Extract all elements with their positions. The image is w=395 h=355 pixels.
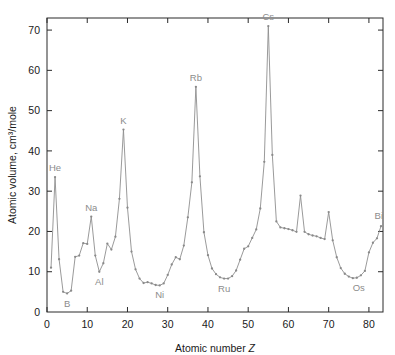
data-point bbox=[372, 242, 374, 244]
data-point bbox=[267, 25, 269, 27]
data-point bbox=[352, 277, 354, 279]
data-point bbox=[255, 228, 257, 230]
data-point bbox=[110, 248, 112, 250]
data-point bbox=[360, 274, 362, 276]
data-point bbox=[155, 284, 157, 286]
data-point bbox=[275, 220, 277, 222]
element-label-b: B bbox=[64, 298, 70, 309]
y-tick-label-zero: 0 bbox=[34, 306, 40, 318]
data-point bbox=[130, 250, 132, 252]
data-point bbox=[86, 243, 88, 245]
y-tick-label: 10 bbox=[28, 265, 40, 277]
data-point bbox=[167, 274, 169, 276]
x-tick-label: 0 bbox=[44, 318, 50, 330]
data-point bbox=[146, 281, 148, 283]
x-axis-ticks: 01020304050607080 bbox=[44, 18, 375, 330]
x-tick-label: 70 bbox=[323, 318, 335, 330]
data-point bbox=[332, 239, 334, 241]
data-point bbox=[78, 254, 80, 256]
data-point bbox=[58, 258, 60, 260]
element-label-he: He bbox=[49, 162, 61, 173]
data-point bbox=[227, 277, 229, 279]
element-label-ru: Ru bbox=[218, 283, 230, 294]
y-tick-label: 30 bbox=[28, 185, 40, 197]
element-label-rb: Rb bbox=[190, 72, 202, 83]
data-point bbox=[348, 275, 350, 277]
data-point bbox=[356, 277, 358, 279]
x-tick-label: 20 bbox=[122, 318, 134, 330]
data-point bbox=[336, 256, 338, 258]
y-tick-label: 40 bbox=[28, 145, 40, 157]
data-point bbox=[380, 225, 382, 227]
data-point bbox=[291, 229, 293, 231]
data-point bbox=[299, 194, 301, 196]
data-point bbox=[54, 176, 56, 178]
data-point bbox=[219, 276, 221, 278]
data-point bbox=[126, 207, 128, 209]
data-point bbox=[311, 234, 313, 236]
data-point bbox=[50, 267, 52, 269]
data-series-group bbox=[51, 26, 381, 293]
data-point bbox=[287, 228, 289, 230]
x-tick-label: 50 bbox=[242, 318, 254, 330]
y-tick-label: 50 bbox=[28, 104, 40, 116]
data-point bbox=[62, 291, 64, 293]
data-point bbox=[303, 231, 305, 233]
data-point bbox=[134, 268, 136, 270]
atomic-volume-chart-figure: 01020304050607080 102030405060700 HeBNaA… bbox=[0, 0, 395, 355]
data-point bbox=[102, 262, 104, 264]
data-point bbox=[90, 215, 92, 217]
data-point bbox=[106, 242, 108, 244]
y-tick-label: 70 bbox=[28, 24, 40, 36]
data-point bbox=[223, 277, 225, 279]
data-point bbox=[114, 236, 116, 238]
data-point bbox=[171, 263, 173, 265]
data-point bbox=[82, 242, 84, 244]
x-tick-label: 80 bbox=[363, 318, 375, 330]
x-tick-label: 30 bbox=[162, 318, 174, 330]
data-point bbox=[376, 237, 378, 239]
data-point bbox=[279, 226, 281, 228]
data-point bbox=[74, 256, 76, 258]
data-point bbox=[247, 245, 249, 247]
data-point bbox=[328, 211, 330, 213]
data-point bbox=[235, 269, 237, 271]
x-tick-label: 40 bbox=[202, 318, 214, 330]
data-point bbox=[94, 254, 96, 256]
data-point bbox=[183, 244, 185, 246]
data-point bbox=[324, 238, 326, 240]
data-point bbox=[315, 235, 317, 237]
plot-box bbox=[47, 18, 383, 312]
data-point bbox=[295, 231, 297, 233]
data-point bbox=[259, 207, 261, 209]
data-point bbox=[364, 270, 366, 272]
element-label-al: Al bbox=[95, 276, 103, 287]
data-point bbox=[344, 273, 346, 275]
element-label-os: Os bbox=[353, 282, 365, 293]
data-point bbox=[215, 273, 217, 275]
x-tick-label: 60 bbox=[283, 318, 295, 330]
x-tick-label: 10 bbox=[81, 318, 93, 330]
element-label-k: K bbox=[120, 115, 127, 126]
data-point bbox=[150, 282, 152, 284]
x-axis-title-text: Atomic number bbox=[175, 342, 249, 354]
y-tick-label: 60 bbox=[28, 64, 40, 76]
data-point bbox=[175, 256, 177, 258]
y-axis-title: Atomic volume, cm³/mole bbox=[6, 106, 18, 224]
data-point-markers bbox=[50, 25, 382, 295]
data-point bbox=[179, 258, 181, 260]
data-point bbox=[122, 128, 124, 130]
atomic-volume-curve bbox=[51, 26, 381, 293]
data-point bbox=[231, 275, 233, 277]
data-point bbox=[163, 282, 165, 284]
data-point bbox=[142, 282, 144, 284]
x-axis-title-symbol: Z bbox=[248, 342, 256, 354]
data-point bbox=[138, 277, 140, 279]
data-point bbox=[199, 175, 201, 177]
data-point bbox=[319, 237, 321, 239]
y-axis-ticks: 102030405060700 bbox=[28, 24, 383, 318]
data-point bbox=[263, 161, 265, 163]
element-label-cs: Cs bbox=[262, 11, 274, 22]
data-point bbox=[191, 181, 193, 183]
data-point bbox=[243, 248, 245, 250]
